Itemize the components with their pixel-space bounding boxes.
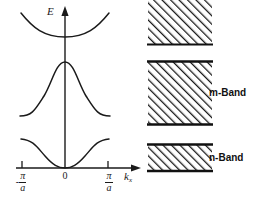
band-label-n: n-Band: [209, 152, 243, 163]
allowed-bands-diagram: [0, 0, 257, 204]
band-block-m: [147, 62, 213, 125]
band-block-m-fill: [148, 62, 212, 124]
band-block-n-fill: [148, 145, 212, 171]
band-structure-figure: E kx -πa 0 πa m-Band n-Band: [0, 0, 257, 204]
band-block-upper: [147, 0, 213, 45]
band-label-m: m-Band: [209, 87, 246, 98]
band-block-upper-fill: [148, 0, 212, 44]
band-block-n: [147, 145, 213, 172]
